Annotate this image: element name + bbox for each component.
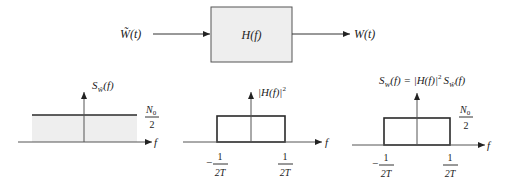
output-psd-plot: SW(f) = |H(f)|2SW̃(f) f N0 2 − 1 2T 1 2T bbox=[352, 73, 492, 179]
tick-label-half-over-t: 1 2T bbox=[443, 152, 458, 179]
tick-label-neg-half-over-t: − 1 2T bbox=[372, 152, 394, 179]
block-diagram: W̃(t) H(f) W(t) bbox=[120, 7, 375, 62]
svg-text:2: 2 bbox=[150, 119, 155, 130]
svg-text:N0: N0 bbox=[459, 104, 471, 117]
level-value-label: N0 2 bbox=[459, 104, 473, 131]
input-psd-plot: SW̃(f) f N0 2 bbox=[18, 79, 159, 148]
filter-label: H(f) bbox=[241, 28, 262, 42]
x-axis-label: f bbox=[487, 139, 492, 151]
y-axis-label: SW̃(f) bbox=[92, 79, 114, 94]
y-axis-label: |H(f)|2 bbox=[258, 85, 286, 99]
input-signal-label: W̃(t) bbox=[120, 27, 141, 41]
svg-text:2: 2 bbox=[464, 120, 469, 131]
svg-text:2T: 2T bbox=[215, 167, 227, 178]
svg-text:1: 1 bbox=[218, 151, 223, 162]
x-axis-label: f bbox=[325, 136, 330, 148]
svg-text:1: 1 bbox=[384, 152, 389, 163]
svg-text:−: − bbox=[372, 157, 378, 169]
svg-text:2T: 2T bbox=[445, 168, 457, 179]
svg-text:2T: 2T bbox=[280, 167, 292, 178]
noise-filtering-diagram: W̃(t) H(f) W(t) SW̃(f) f N0 2 |H(f)|2 f … bbox=[0, 0, 509, 188]
svg-text:1: 1 bbox=[283, 151, 288, 162]
svg-text:1: 1 bbox=[448, 152, 453, 163]
tick-label-half-over-t: 1 2T bbox=[278, 151, 293, 178]
level-value-label: N0 2 bbox=[145, 104, 159, 130]
filter-response-plot: |H(f)|2 f − 1 2T 1 2T bbox=[183, 85, 330, 178]
tick-label-neg-half-over-t: − 1 2T bbox=[206, 151, 228, 178]
svg-text:N0: N0 bbox=[145, 104, 157, 117]
y-axis-label: SW(f) = |H(f)|2SW̃(f) bbox=[379, 73, 466, 89]
svg-text:2T: 2T bbox=[381, 168, 393, 179]
output-signal-label: W(t) bbox=[354, 27, 375, 41]
x-axis-label: f bbox=[154, 136, 159, 148]
svg-text:−: − bbox=[206, 156, 212, 168]
